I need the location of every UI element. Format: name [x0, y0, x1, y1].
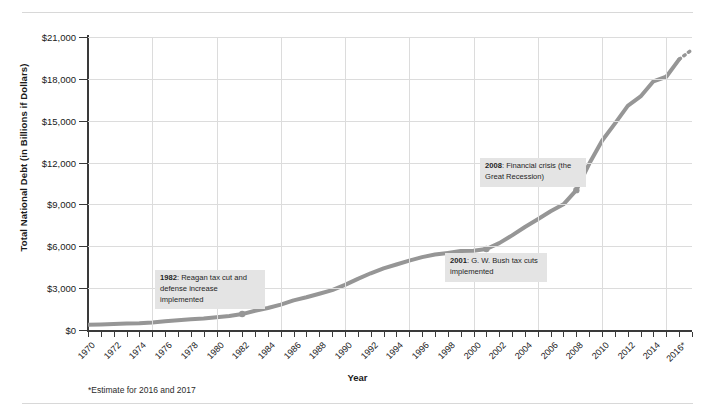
debt-line-projection-dashed — [679, 50, 692, 60]
x-tick-mark — [448, 332, 449, 337]
vertical-gridline — [474, 37, 475, 330]
x-tick-mark — [422, 332, 423, 337]
x-tick-mark — [281, 332, 282, 337]
x-tick-mark — [602, 332, 603, 337]
annotation-2001-year: 2001 — [450, 256, 467, 265]
y-tick-mark — [79, 330, 88, 331]
y-tick-label: $12,000 — [42, 157, 76, 168]
x-tick-mark — [255, 332, 256, 337]
x-tick-mark — [178, 332, 179, 337]
data-point-marker-1982 — [239, 311, 245, 317]
x-tick-mark — [139, 332, 140, 337]
x-tick-mark — [306, 332, 307, 337]
vertical-gridline — [281, 37, 282, 330]
x-tick-mark — [345, 332, 346, 337]
annotation-1982: 1982: Reagan tax cut and defense increas… — [155, 270, 265, 309]
x-tick-mark — [692, 332, 693, 337]
x-tick-mark — [88, 332, 89, 337]
y-tick-label: $18,000 — [42, 73, 76, 84]
x-tick-mark — [268, 332, 269, 337]
y-tick-label: $3,000 — [47, 283, 76, 294]
y-tick-label: $9,000 — [47, 199, 76, 210]
annotation-1982-year: 1982 — [160, 273, 177, 282]
y-tick-mark — [79, 204, 88, 205]
annotation-2008: 2008: Financial crisis (the Great Recess… — [480, 158, 586, 187]
y-tick-label: $21,000 — [42, 32, 76, 43]
x-tick-mark — [191, 332, 192, 337]
y-tick-mark — [79, 246, 88, 247]
x-tick-mark — [486, 332, 487, 337]
annotation-2001: 2001: G. W. Bush tax cuts implemented — [445, 253, 547, 282]
x-tick-mark — [628, 332, 629, 337]
x-tick-mark — [114, 332, 115, 337]
x-tick-mark — [525, 332, 526, 337]
x-tick-mark — [653, 332, 654, 337]
y-tick-label: $6,000 — [47, 241, 76, 252]
x-tick-mark — [332, 332, 333, 337]
x-tick-mark — [576, 332, 577, 337]
x-tick-mark — [371, 332, 372, 337]
x-tick-mark — [294, 332, 295, 337]
x-tick-mark — [242, 332, 243, 337]
x-tick-mark — [165, 332, 166, 337]
x-tick-mark — [319, 332, 320, 337]
x-tick-mark — [461, 332, 462, 337]
x-tick-mark — [589, 332, 590, 337]
vertical-gridline — [666, 37, 667, 330]
annotation-2008-year: 2008 — [485, 161, 502, 170]
y-tick-mark — [79, 163, 88, 164]
vertical-gridline — [409, 37, 410, 330]
x-tick-mark — [396, 332, 397, 337]
x-tick-mark — [512, 332, 513, 337]
x-tick-mark — [229, 332, 230, 337]
x-tick-mark — [217, 332, 218, 337]
x-tick-mark — [474, 332, 475, 337]
x-tick-mark — [358, 332, 359, 337]
x-tick-mark — [101, 332, 102, 337]
x-tick-mark — [499, 332, 500, 337]
y-tick-label: $0 — [65, 325, 76, 336]
top-divider — [22, 12, 693, 13]
chart-footnote: *Estimate for 2016 and 2017 — [88, 385, 196, 395]
x-tick-mark — [679, 332, 680, 337]
y-axis-tick-labels: $21,000$18,000$15,000$12,000$9,000$6,000… — [0, 0, 76, 416]
y-tick-mark — [79, 37, 88, 38]
x-tick-mark — [152, 332, 153, 337]
x-tick-mark — [615, 332, 616, 337]
x-axis-title: Year — [0, 372, 715, 383]
x-tick-mark — [563, 332, 564, 337]
x-tick-mark — [666, 332, 667, 337]
bottom-divider — [22, 403, 693, 404]
x-tick-label: 2016* — [637, 340, 688, 391]
x-tick-mark — [435, 332, 436, 337]
y-tick-mark — [79, 121, 88, 122]
x-tick-mark — [551, 332, 552, 337]
x-tick-mark — [204, 332, 205, 337]
x-tick-mark — [127, 332, 128, 337]
vertical-gridline — [602, 37, 603, 330]
x-tick-mark — [409, 332, 410, 337]
y-tick-mark — [79, 288, 88, 289]
y-tick-mark — [79, 79, 88, 80]
x-tick-mark — [538, 332, 539, 337]
y-tick-label: $15,000 — [42, 115, 76, 126]
vertical-gridline — [345, 37, 346, 330]
x-tick-mark — [641, 332, 642, 337]
vertical-gridline — [152, 37, 153, 330]
data-point-marker-2008 — [573, 187, 579, 193]
x-tick-mark — [384, 332, 385, 337]
